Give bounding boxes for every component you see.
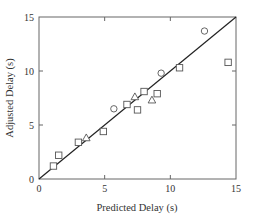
x-axis-label: Predicted Delay (s) xyxy=(96,202,178,214)
square-marker xyxy=(56,152,62,158)
square-marker xyxy=(176,65,182,71)
scatter-chart: 051015051015 Predicted Delay (s) Adjuste… xyxy=(0,0,255,219)
y-tick-label: 0 xyxy=(29,174,34,185)
x-tick-label: 15 xyxy=(231,183,241,194)
square-marker xyxy=(154,90,160,96)
circle-marker xyxy=(201,28,207,34)
x-tick-label: 0 xyxy=(37,183,42,194)
square-marker xyxy=(100,128,106,134)
square-marker xyxy=(141,88,147,94)
square-marker xyxy=(124,101,130,107)
x-tick-label: 5 xyxy=(102,183,107,194)
square-marker xyxy=(225,59,231,65)
triangle-marker xyxy=(131,93,139,100)
y-tick-label: 10 xyxy=(24,66,34,77)
square-marker xyxy=(134,107,140,113)
circle-marker xyxy=(111,106,117,112)
y-axis-label: Adjusted Delay (s) xyxy=(4,58,16,138)
x-tick-label: 10 xyxy=(165,183,175,194)
square-marker xyxy=(75,139,81,145)
circle-marker xyxy=(158,70,164,76)
square-marker xyxy=(50,163,56,169)
y-tick-label: 15 xyxy=(24,12,34,23)
y-tick-label: 5 xyxy=(29,120,34,131)
